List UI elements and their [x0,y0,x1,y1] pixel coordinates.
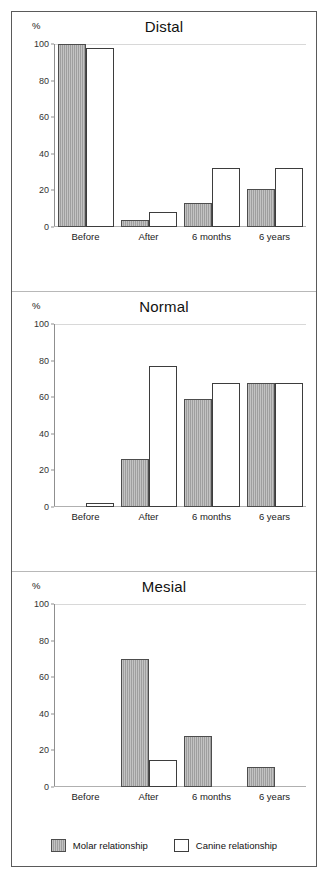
y-tick-label: 20 [39,465,49,475]
x-axis-labels-distal: Before After 6 months 6 years [54,231,306,242]
bar-group [243,44,306,227]
plot-area-distal: 100 80 60 40 20 0 [54,44,306,227]
chart-title-mesial: Mesial [12,578,316,595]
bar-canine[interactable] [86,48,114,227]
bar-group [117,324,180,507]
bar-canine[interactable] [149,366,177,507]
plot-area-normal: 100 80 60 40 20 0 [54,324,306,507]
x-tick-label: After [117,791,180,802]
plot-area-mesial: 100 80 60 40 20 0 [54,604,306,787]
bar-group [180,324,243,507]
y-tick-label: 100 [34,319,49,329]
legend-swatch-canine-icon [174,839,189,852]
bar-molar[interactable] [184,399,212,507]
x-tick-label: Before [54,511,117,522]
bar-molar[interactable] [121,459,149,507]
bar-molar[interactable] [58,44,86,227]
bar-molar[interactable] [247,767,275,787]
chart-title-normal: Normal [12,298,316,315]
x-axis-labels-normal: Before After 6 months 6 years [54,511,306,522]
y-tick-label: 80 [39,636,49,646]
chart-legend: Molar relationship Canine relationship [36,839,292,852]
y-tick-label: 0 [44,782,49,792]
bar-canine[interactable] [149,212,177,227]
y-tick-label: 0 [44,502,49,512]
bar-canine[interactable] [86,503,114,507]
bar-groups-normal [54,324,306,507]
y-tick-label: 100 [34,39,49,49]
bar-group [180,44,243,227]
bar-molar[interactable] [121,220,149,227]
bar-group [54,324,117,507]
chart-panel-mesial: % Mesial 100 80 60 40 20 0 [12,572,316,868]
bar-molar[interactable] [184,736,212,787]
bar-group [54,604,117,787]
x-tick-label: 6 years [243,511,306,522]
legend-item-canine[interactable]: Canine relationship [174,839,277,852]
x-tick-label: 6 months [180,511,243,522]
x-tick-label: 6 months [180,231,243,242]
x-tick-label: 6 months [180,791,243,802]
bar-molar[interactable] [184,203,212,227]
x-tick-label: After [117,511,180,522]
y-tick-label: 40 [39,149,49,159]
bar-canine[interactable] [212,168,240,227]
chart-title-distal: Distal [12,18,316,35]
figure-container: % Distal 100 80 60 40 20 0 [11,11,317,867]
y-tick-label: 60 [39,112,49,122]
bar-group [180,604,243,787]
bar-molar[interactable] [121,659,149,787]
legend-swatch-molar-icon [51,839,66,852]
y-tick-label: 100 [34,599,49,609]
y-tick-label: 60 [39,672,49,682]
bar-groups-mesial [54,604,306,787]
bar-group [117,604,180,787]
bar-groups-distal [54,44,306,227]
x-tick-label: 6 years [243,231,306,242]
bar-group [243,324,306,507]
x-tick-label: 6 years [243,791,306,802]
chart-panel-normal: % Normal 100 80 60 40 20 0 [12,292,316,572]
bar-canine[interactable] [275,168,303,227]
y-tick-label: 20 [39,745,49,755]
bar-canine[interactable] [275,383,303,507]
bar-group [54,44,117,227]
bar-canine[interactable] [149,760,177,787]
bar-molar[interactable] [247,383,275,507]
y-tick-label: 80 [39,76,49,86]
y-tick-label: 60 [39,392,49,402]
legend-label-molar: Molar relationship [73,840,148,851]
y-tick-label: 40 [39,429,49,439]
x-axis-labels-mesial: Before After 6 months 6 years [54,791,306,802]
bar-canine[interactable] [212,383,240,507]
y-tick-label: 20 [39,185,49,195]
legend-item-molar[interactable]: Molar relationship [51,839,148,852]
chart-panel-distal: % Distal 100 80 60 40 20 0 [12,12,316,292]
bar-group [117,44,180,227]
y-tick-label: 80 [39,356,49,366]
bar-group [243,604,306,787]
x-tick-label: Before [54,231,117,242]
legend-label-canine: Canine relationship [196,840,277,851]
y-tick-label: 0 [44,222,49,232]
x-tick-label: Before [54,791,117,802]
y-tick-label: 40 [39,709,49,719]
x-tick-label: After [117,231,180,242]
bar-molar[interactable] [247,189,275,227]
